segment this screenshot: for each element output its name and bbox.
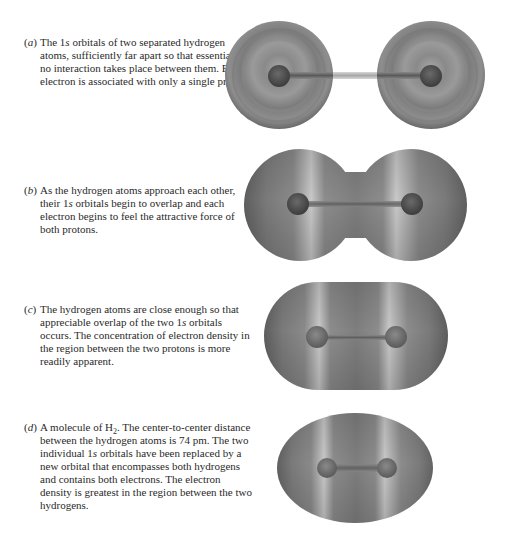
caption-label-b: (b) [24, 184, 37, 197]
caption-b: (b) As the hydrogen atoms approach each … [24, 184, 252, 236]
caption-label-a: (a) [24, 36, 37, 49]
caption-text-b: As the hydrogen atoms approach each othe… [40, 184, 252, 236]
nucleus-right [377, 458, 397, 478]
caption-a: (a) The 1s orbitals of two separated hyd… [24, 36, 252, 88]
orbital-illustration-a [220, 14, 495, 138]
nucleus-right [401, 193, 423, 215]
nucleus-left [317, 458, 337, 478]
nucleus-left [268, 65, 290, 87]
nucleus-right [385, 326, 407, 348]
nucleus-right [420, 65, 442, 87]
orbital-illustration-b [240, 148, 472, 264]
caption-text-d: A molecule of H2. The center-to-center d… [40, 421, 252, 512]
orbital-illustration-d [274, 410, 438, 528]
caption-d: (d) A molecule of H2. The center-to-cent… [24, 421, 252, 512]
nucleus-left [306, 326, 328, 348]
caption-label-c: (c) [24, 303, 36, 316]
caption-c: (c) The hydrogen atoms are close enough … [24, 303, 252, 368]
caption-label-d: (d) [24, 421, 37, 434]
nucleus-left [287, 193, 309, 215]
orbital-illustration-c [260, 278, 452, 394]
caption-text-c: The hydrogen atoms are close enough so t… [40, 303, 252, 368]
